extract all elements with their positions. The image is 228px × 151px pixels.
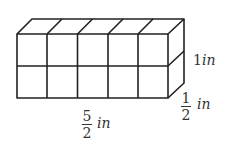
prism-drawing [0, 0, 228, 151]
length-denominator: 2 [83, 126, 92, 140]
length-unit: in [97, 115, 111, 131]
depth-fraction: 1 2 [181, 91, 191, 122]
depth-denominator: 2 [182, 108, 191, 122]
top-face [17, 19, 184, 34]
length-numerator: 5 [83, 109, 92, 123]
height-value: 1 [193, 52, 202, 68]
height-label: 1in [193, 53, 215, 67]
height-unit: in [202, 52, 216, 68]
length-fraction: 5 2 [82, 109, 92, 140]
depth-unit: in [197, 96, 211, 112]
depth-numerator: 1 [182, 91, 191, 105]
